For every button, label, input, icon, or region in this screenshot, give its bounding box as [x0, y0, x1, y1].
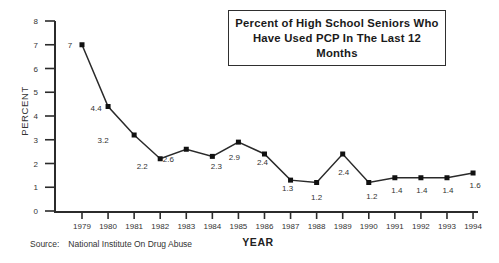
data-point: [444, 175, 449, 180]
data-point: [392, 175, 397, 180]
data-point-label: 4.4: [91, 104, 103, 113]
x-tick-label: 1982: [151, 222, 169, 231]
y-tick-label: 5: [34, 88, 39, 97]
data-point: [236, 140, 241, 145]
x-tick-label: 1992: [412, 222, 430, 231]
x-tick-label: 1988: [308, 222, 326, 231]
data-point-label: 2.6: [163, 155, 175, 164]
x-tick-label: 1985: [230, 222, 248, 231]
source-note: Source:National Institute On Drug Abuse: [30, 239, 192, 249]
y-tick-label: 0: [34, 207, 39, 216]
x-tick-label: 1981: [125, 222, 143, 231]
data-point-label: 7: [68, 41, 73, 50]
chart-title-line2: Have Used PCP In The Last 12 Months: [231, 31, 443, 61]
data-point: [366, 180, 371, 185]
chart: 0123456781979198019811982198319841985198…: [0, 0, 499, 263]
source-label: Source:: [30, 239, 59, 249]
x-tick-label: 1979: [73, 222, 91, 231]
y-axis-title: PERCENT: [19, 86, 30, 136]
x-tick-label: 1987: [282, 222, 300, 231]
data-point: [471, 171, 476, 176]
data-point-label: 1.2: [366, 192, 378, 201]
x-tick-label: 1994: [464, 222, 482, 231]
x-tick-label: 1984: [203, 222, 221, 231]
x-tick-label: 1983: [177, 222, 195, 231]
source-text: National Institute On Drug Abuse: [68, 239, 192, 249]
y-tick-label: 3: [34, 136, 39, 145]
x-tick-label: 1990: [360, 222, 378, 231]
y-tick-label: 4: [34, 112, 39, 121]
data-point-label: 2.9: [229, 153, 241, 162]
data-point-label: 2.3: [211, 162, 223, 171]
data-point-label: 1.4: [442, 186, 454, 195]
x-tick-label: 1986: [256, 222, 274, 231]
data-point: [288, 178, 293, 183]
data-point: [106, 104, 111, 109]
data-point: [262, 152, 267, 157]
x-tick-label: 1980: [99, 222, 117, 231]
data-point: [210, 154, 215, 159]
x-tick-label: 1991: [386, 222, 404, 231]
chart-title-box: Percent of High School Seniors Who Have …: [228, 10, 446, 66]
x-tick-label: 1989: [334, 222, 352, 231]
data-point-label: 2.4: [257, 158, 269, 167]
data-point: [314, 180, 319, 185]
data-point: [184, 147, 189, 152]
data-point-label: 2.2: [137, 162, 149, 171]
y-tick-label: 7: [34, 41, 39, 50]
y-tick-label: 2: [34, 160, 39, 169]
data-point: [132, 133, 137, 138]
data-point-label: 1.4: [391, 186, 403, 195]
data-point-label: 1.4: [416, 186, 428, 195]
data-point-label: 1.3: [282, 184, 294, 193]
y-tick-label: 1: [34, 183, 39, 192]
data-point-label: 2.4: [338, 168, 350, 177]
data-point: [418, 175, 423, 180]
x-tick-label: 1993: [438, 222, 456, 231]
data-point-label: 1.6: [469, 181, 481, 190]
x-axis-title: YEAR: [242, 236, 274, 248]
y-tick-label: 6: [34, 65, 39, 74]
data-point-label: 1.2: [311, 193, 323, 202]
data-point: [80, 42, 85, 47]
chart-title-line1: Percent of High School Seniors Who: [231, 16, 443, 31]
y-tick-label: 8: [34, 17, 39, 26]
data-point: [340, 152, 345, 157]
data-point-label: 3.2: [98, 136, 110, 145]
